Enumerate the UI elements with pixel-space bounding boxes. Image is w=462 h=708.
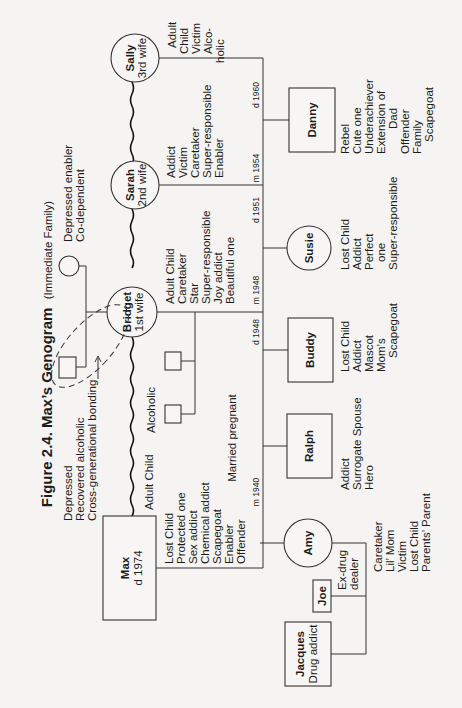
svg-text:dealer: dealer bbox=[348, 558, 360, 590]
svg-text:Adult: Adult bbox=[166, 21, 178, 48]
subtitle-text: (Immediate Family) bbox=[42, 201, 54, 300]
svg-text:Figure 2.4. Max’s Genogram: Figure 2.4. Max’s Genogram (Immediate Fa… bbox=[38, 201, 55, 508]
svg-text:Super-responsible: Super-responsible bbox=[387, 177, 399, 270]
svg-text:Co-dependent: Co-dependent bbox=[74, 168, 86, 242]
sally-name: Sally bbox=[124, 44, 136, 71]
svg-text:Rebel: Rebel bbox=[339, 124, 351, 154]
svg-text:Perfect: Perfect bbox=[363, 233, 375, 270]
svg-text:Addict: Addict bbox=[339, 457, 351, 490]
married-pregnant-note: Married pregnant bbox=[226, 393, 238, 481]
bridget-detail: 1st wife bbox=[133, 293, 145, 332]
svg-text:Lost Child: Lost Child bbox=[163, 513, 175, 564]
svg-text:Caretaker: Caretaker bbox=[372, 521, 384, 572]
svg-text:Dad: Dad bbox=[387, 108, 399, 129]
svg-text:Mascot: Mascot bbox=[363, 334, 375, 372]
title-text: Figure 2.4. Max’s Genogram bbox=[38, 308, 55, 508]
event-d1948: d 1948 bbox=[251, 319, 261, 345]
bridget-sibling-1-node bbox=[165, 352, 181, 370]
max-adult-child-note: Adult Child bbox=[143, 454, 155, 510]
sarah-name: Sarah bbox=[124, 169, 136, 201]
amy-name: Amy bbox=[302, 530, 314, 556]
svg-text:Scapegoat: Scapegoat bbox=[211, 508, 223, 564]
amy-traits: Caretaker Lil’ Mom Victim Lost Child Par… bbox=[372, 492, 432, 572]
svg-text:Joy addict: Joy addict bbox=[212, 251, 224, 304]
bridget-sibling-2-node bbox=[165, 405, 181, 423]
svg-text:Victim: Victim bbox=[396, 541, 408, 572]
buddy-name: Buddy bbox=[304, 332, 316, 368]
sarah-detail: 2nd wife bbox=[136, 164, 148, 207]
svg-text:Sex addict: Sex addict bbox=[187, 509, 199, 564]
bridget-mother-traits: Depressed enabler Co-dependent bbox=[62, 145, 86, 242]
svg-text:Protected one: Protected one bbox=[175, 492, 187, 564]
svg-text:Addict: Addict bbox=[165, 145, 177, 178]
svg-text:Caretaker: Caretaker bbox=[189, 127, 201, 178]
svg-text:Lil’ Mom: Lil’ Mom bbox=[384, 530, 396, 572]
svg-text:Extension of: Extension of bbox=[375, 90, 387, 154]
svg-text:Child: Child bbox=[178, 28, 190, 54]
svg-text:Victim: Victim bbox=[190, 23, 202, 54]
siblings-alcoholic-note: Alcoholic bbox=[145, 387, 157, 433]
sally-traits: Adult Child Victim Alco- holic bbox=[166, 21, 226, 63]
ralph-traits: Addict Surrogate Spouse Hero bbox=[339, 397, 375, 490]
svg-text:Enabler: Enabler bbox=[213, 138, 225, 178]
bond-arrow-icon bbox=[95, 356, 101, 379]
jacques-name: Jacques bbox=[294, 631, 306, 677]
svg-text:Chemical addict: Chemical addict bbox=[199, 481, 211, 564]
event-m1948: m 1948 bbox=[251, 276, 261, 305]
svg-text:Recovered alcoholic: Recovered alcoholic bbox=[74, 417, 86, 521]
svg-text:Addict: Addict bbox=[351, 339, 363, 372]
svg-text:Victim: Victim bbox=[177, 147, 189, 178]
bridget-father-node bbox=[59, 357, 76, 378]
svg-text:Super-responsible: Super-responsible bbox=[200, 211, 212, 304]
svg-text:Addict: Addict bbox=[351, 237, 363, 270]
bridget-father-traits: Depressed Recovered alcoholic Cross-gene… bbox=[62, 380, 98, 521]
svg-text:Scapegoat: Scapegoat bbox=[423, 86, 435, 142]
svg-text:Lost Child: Lost Child bbox=[339, 321, 351, 372]
svg-text:Enabler: Enabler bbox=[223, 524, 235, 564]
svg-text:Depressed enabler: Depressed enabler bbox=[62, 145, 74, 242]
svg-text:Hero: Hero bbox=[363, 465, 375, 490]
svg-text:Lost Child: Lost Child bbox=[408, 521, 420, 572]
joe-traits: Ex-drug dealer bbox=[336, 550, 360, 590]
max-name: Max bbox=[119, 556, 131, 579]
event-m1954: m 1954 bbox=[251, 154, 261, 183]
svg-text:Star: Star bbox=[188, 283, 200, 304]
svg-text:Alco-: Alco- bbox=[202, 28, 214, 54]
svg-text:Ex-drug: Ex-drug bbox=[336, 550, 348, 590]
svg-text:Cute one: Cute one bbox=[351, 107, 363, 154]
svg-text:Lost Child: Lost Child bbox=[339, 219, 351, 270]
susie-traits: Lost Child Addict Perfect one Super-resp… bbox=[339, 177, 399, 270]
svg-text:holic: holic bbox=[214, 39, 226, 63]
svg-text:Offender: Offender bbox=[399, 109, 411, 154]
svg-text:Offender: Offender bbox=[235, 519, 247, 564]
svg-text:Mom’s: Mom’s bbox=[375, 338, 387, 372]
danny-traits: Rebel Cute one Underachiever Extension o… bbox=[339, 79, 435, 154]
svg-text:Super-responsible: Super-responsible bbox=[201, 85, 213, 178]
svg-text:Surrogate Spouse: Surrogate Spouse bbox=[351, 397, 363, 490]
jacques-detail: Drug addict bbox=[307, 624, 319, 684]
sally-detail: 3rd wife bbox=[136, 38, 148, 78]
event-m1940: m 1940 bbox=[251, 478, 261, 507]
ralph-name: Ralph bbox=[303, 430, 315, 462]
figure-title: Figure 2.4. Max’s Genogram (Immediate Fa… bbox=[38, 201, 55, 508]
event-d1951: d 1951 bbox=[251, 197, 261, 223]
svg-text:Caretaker: Caretaker bbox=[176, 253, 188, 304]
bridget-mother-node bbox=[59, 256, 79, 276]
svg-text:Beautiful one: Beautiful one bbox=[224, 237, 236, 304]
susie-name: Susie bbox=[303, 233, 315, 264]
bridget-traits: Adult Child Caretaker Star Super-respons… bbox=[164, 211, 236, 304]
max-detail: d 1974 bbox=[132, 550, 144, 586]
max-traits: Lost Child Protected one Sex addict Chem… bbox=[163, 481, 247, 564]
svg-text:Family: Family bbox=[411, 120, 423, 154]
svg-text:one: one bbox=[375, 243, 387, 262]
joe-name: Joe bbox=[316, 586, 328, 606]
event-d1960: d 1960 bbox=[251, 82, 261, 108]
svg-text:Scapegoat: Scapegoat bbox=[387, 302, 399, 358]
svg-text:Underachiever: Underachiever bbox=[363, 79, 375, 154]
buddy-traits: Lost Child Addict Mascot Mom’s Scapegoat bbox=[339, 302, 399, 372]
genogram-figure: Figure 2.4. Max’s Genogram (Immediate Fa… bbox=[0, 0, 462, 708]
svg-text:Cross-generational bonding: Cross-generational bonding bbox=[86, 380, 98, 521]
svg-text:Depressed: Depressed bbox=[62, 465, 74, 521]
svg-text:Parents’ Parent: Parents’ Parent bbox=[420, 492, 432, 572]
danny-name: Danny bbox=[306, 102, 318, 138]
